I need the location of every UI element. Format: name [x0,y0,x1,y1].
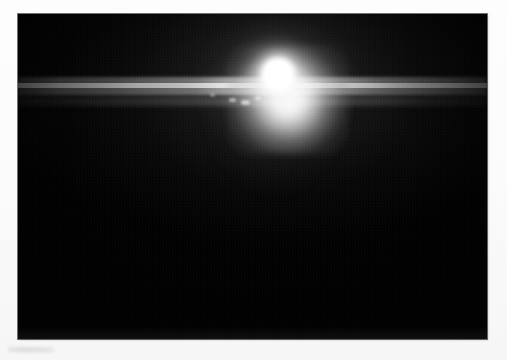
caption-smudge [8,345,54,354]
bottom-edge-band [18,326,487,339]
page-background [0,0,507,360]
saturated-light-core [265,61,291,88]
flare-speck [210,93,215,96]
photograph [18,14,487,339]
